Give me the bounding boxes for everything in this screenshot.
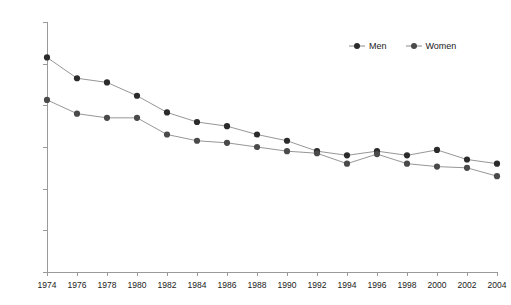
data-point-women-2000: [434, 163, 440, 169]
x-axis-line: [47, 272, 497, 273]
plot-area: 0%10%20%30%40%50%60% 1974197619781980198…: [47, 22, 497, 272]
data-point-men-1990: [284, 138, 290, 144]
x-tick-mark: [407, 272, 408, 276]
x-tick-mark: [137, 272, 138, 276]
x-tick-mark: [167, 272, 168, 276]
data-point-women-1982: [164, 131, 170, 137]
legend-item-men[interactable]: Men: [348, 41, 387, 51]
data-point-men-2000: [434, 147, 440, 153]
data-point-men-1988: [254, 131, 260, 137]
x-tick-mark: [497, 272, 498, 276]
legend-marker-icon: [348, 42, 366, 50]
chart-legend: MenWomen: [348, 41, 456, 51]
legend-label: Women: [426, 41, 457, 51]
series-layer: [47, 22, 497, 272]
x-tick-mark: [77, 272, 78, 276]
x-tick-label: 2004: [477, 280, 511, 290]
legend-label: Men: [369, 41, 387, 51]
data-point-women-2002: [464, 165, 470, 171]
x-tick-mark: [197, 272, 198, 276]
data-point-men-1984: [194, 119, 200, 125]
x-tick-mark: [47, 272, 48, 276]
data-point-women-2004: [494, 173, 500, 179]
data-point-men-2002: [464, 156, 470, 162]
data-point-men-1994: [344, 152, 350, 158]
legend-marker-icon: [405, 42, 423, 50]
series-line-men: [47, 57, 497, 163]
data-point-women-1990: [284, 148, 290, 154]
data-point-men-1976: [74, 75, 80, 81]
data-point-women-1980: [134, 115, 140, 121]
data-point-women-1976: [74, 111, 80, 117]
data-point-women-1994: [344, 161, 350, 167]
data-point-men-1974: [44, 54, 50, 60]
data-point-women-1978: [104, 115, 110, 121]
data-point-women-1992: [314, 150, 320, 156]
data-point-men-1978: [104, 79, 110, 85]
data-point-women-1988: [254, 144, 260, 150]
data-point-men-1982: [164, 109, 170, 115]
data-point-women-1996: [374, 151, 380, 157]
data-point-men-2004: [494, 161, 500, 167]
data-point-women-1998: [404, 161, 410, 167]
x-tick-mark: [227, 272, 228, 276]
data-point-women-1984: [194, 138, 200, 144]
data-point-men-1986: [224, 123, 230, 129]
data-point-women-1974: [44, 97, 50, 103]
x-tick-mark: [437, 272, 438, 276]
x-tick-mark: [377, 272, 378, 276]
x-tick-mark: [107, 272, 108, 276]
x-tick-mark: [467, 272, 468, 276]
data-point-women-1986: [224, 140, 230, 146]
x-tick-mark: [347, 272, 348, 276]
x-tick-mark: [257, 272, 258, 276]
x-tick-mark: [287, 272, 288, 276]
legend-item-women[interactable]: Women: [405, 41, 457, 51]
data-point-men-1980: [134, 93, 140, 99]
x-tick-mark: [317, 272, 318, 276]
data-point-men-1998: [404, 152, 410, 158]
